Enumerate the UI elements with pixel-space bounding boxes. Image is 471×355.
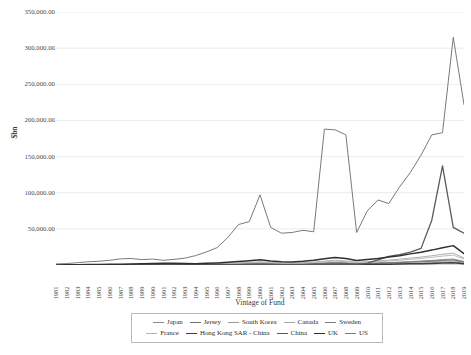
x-axis-tick-labels: 1981198219831984198519861987198819891990… <box>56 267 464 299</box>
series-line <box>56 166 464 265</box>
legend-swatch-icon <box>228 322 239 323</box>
legend-swatch-icon <box>314 333 325 334</box>
line-chart: $bn 50,000.00100,000.00150,000.00200,000… <box>0 0 471 355</box>
legend-item[interactable]: UK <box>314 330 338 337</box>
legend-swatch-icon <box>146 333 157 334</box>
legend-row-1: JapanJerseySouth KoreaCanadaSweden <box>136 317 378 328</box>
y-axis-tick: 250,000.00 <box>3 81 55 88</box>
legend-item[interactable]: South Korea <box>228 319 277 326</box>
legend-label: Canada <box>298 319 319 326</box>
legend-label: China <box>291 330 307 337</box>
legend-swatch-icon <box>186 333 197 334</box>
legend-item[interactable]: Sweden <box>325 319 361 326</box>
legend-swatch-icon <box>325 322 336 323</box>
legend-item[interactable]: Japan <box>153 319 183 326</box>
legend-item[interactable]: Canada <box>284 319 319 326</box>
legend-label: Sweden <box>339 319 361 326</box>
legend-label: Japan <box>167 319 183 326</box>
chart-legend: JapanJerseySouth KoreaCanadaSweden Franc… <box>131 313 383 343</box>
y-axis-tick: 150,000.00 <box>3 153 55 160</box>
legend-item[interactable]: France <box>146 330 179 337</box>
legend-label: South Korea <box>242 319 277 326</box>
legend-label: US <box>359 330 368 337</box>
x-axis-title: Vintage of Fund <box>56 298 464 307</box>
legend-swatch-icon <box>284 322 295 323</box>
legend-row-2: FranceHong Kong SAR - ChinaChinaUKUS <box>136 328 378 339</box>
legend-swatch-icon <box>345 333 356 334</box>
legend-label: Hong Kong SAR - China <box>200 330 270 337</box>
legend-item[interactable]: Hong Kong SAR - China <box>186 330 270 337</box>
legend-label: UK <box>328 330 338 337</box>
y-axis-tick-labels: 50,000.00100,000.00150,000.00200,000.002… <box>0 0 55 275</box>
legend-swatch-icon <box>277 333 288 334</box>
legend-item[interactable]: China <box>277 330 307 337</box>
y-axis-tick: 100,000.00 <box>3 189 55 196</box>
legend-label: France <box>160 330 179 337</box>
y-axis-tick: 200,000.00 <box>3 117 55 124</box>
y-axis-tick: 50,000.00 <box>3 225 55 232</box>
chart-svg <box>56 12 464 265</box>
series-line <box>56 37 464 264</box>
y-axis-tick: 350,000.00 <box>3 9 55 16</box>
plot-area <box>56 12 464 265</box>
legend-swatch-icon <box>153 322 164 323</box>
legend-item[interactable]: US <box>345 330 368 337</box>
legend-item[interactable]: Jersey <box>190 319 221 326</box>
legend-swatch-icon <box>190 322 201 323</box>
y-axis-tick: 300,000.00 <box>3 45 55 52</box>
legend-label: Jersey <box>204 319 221 326</box>
